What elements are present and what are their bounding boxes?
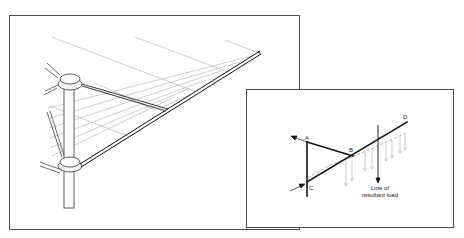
inset-diagram-frame [246,89,454,228]
